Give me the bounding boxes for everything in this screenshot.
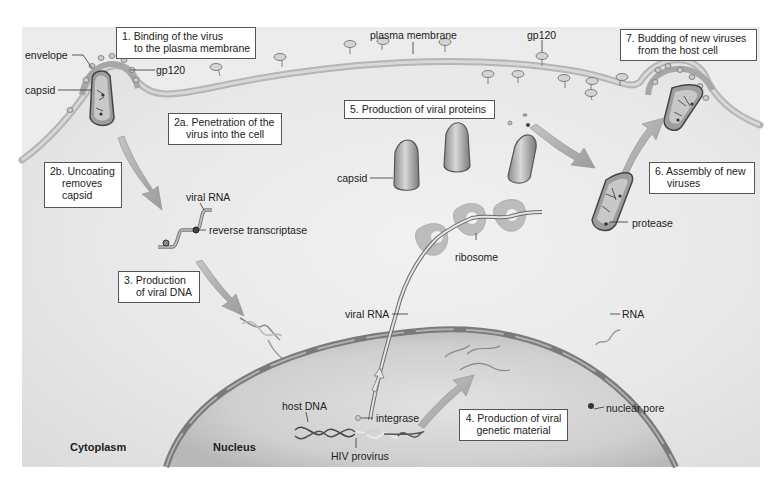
label-reverse-transcriptase: reverse transcriptase [209, 224, 307, 236]
label-viral-rna-nucleus: viral RNA [345, 308, 389, 320]
step-5-line1: 5. Production of viral proteins [350, 103, 486, 115]
step-6-line1: 6. Assembly of new [655, 165, 745, 177]
label-gp120-top: gp120 [527, 29, 556, 41]
step-6-line2: viruses [655, 177, 749, 189]
step-2a-line1: 2a. Penetration of the [174, 116, 274, 128]
step-4-label: 4. Production of viral genetic material [459, 409, 568, 441]
label-integrase: integrase [376, 412, 419, 424]
label-plasma-membrane: plasma membrane [370, 29, 457, 41]
step-3-label: 3. Production of viral DNA [118, 271, 200, 303]
region-label-cytoplasm: Cytoplasm [70, 441, 126, 453]
label-host-dna: host DNA [282, 400, 327, 412]
label-capsid-left: capsid [25, 84, 55, 96]
step-2b-label: 2b. Uncoating removes capsid [44, 162, 122, 208]
step-3-line1: 3. Production [124, 274, 186, 286]
label-envelope: envelope [25, 49, 68, 61]
label-viral-rna-cytoplasm: viral RNA [186, 191, 230, 203]
step-2b-line1: 2b. Uncoating [50, 165, 115, 177]
region-label-nucleus: Nucleus [213, 441, 256, 453]
step-7-label: 7. Budding of new viruses from the host … [620, 29, 757, 61]
integrase-enzyme [356, 416, 361, 421]
step-3-line2: of viral DNA [124, 286, 194, 298]
step-5-label: 5. Production of viral proteins [344, 100, 495, 119]
label-nuclear-pore: nuclear pore [606, 402, 664, 414]
hiv-replication-diagram: 1. Binding of the virus to the plasma me… [0, 0, 781, 485]
step-1-label: 1. Binding of the virus to the plasma me… [116, 27, 256, 59]
label-capsid-mid: capsid [337, 172, 367, 184]
step-1-line2: to the plasma membrane [122, 42, 250, 54]
step-2a-line2: virus into the cell [174, 128, 276, 140]
label-ribosome: ribosome [455, 251, 498, 263]
step-4-line1: 4. Production of viral [465, 412, 562, 424]
step-7-line2: from the host cell [626, 44, 751, 56]
nuclear-pore [588, 403, 594, 409]
step-1-line1: 1. Binding of the virus [122, 30, 223, 42]
label-protease: protease [632, 217, 673, 229]
step-2b-line2: removes [50, 177, 116, 189]
step-7-line1: 7. Budding of new viruses [626, 32, 746, 44]
label-hiv-provirus: HIV provirus [331, 450, 389, 462]
label-rna: RNA [622, 308, 644, 320]
protease-enzyme [604, 222, 608, 226]
step-6-label: 6. Assembly of new viruses [649, 162, 755, 194]
label-gp120-left: gp120 [156, 64, 185, 76]
step-4-line2: genetic material [465, 424, 562, 436]
step-2a-label: 2a. Penetration of the virus into the ce… [168, 113, 282, 145]
step-2b-line3: capsid [50, 189, 116, 201]
